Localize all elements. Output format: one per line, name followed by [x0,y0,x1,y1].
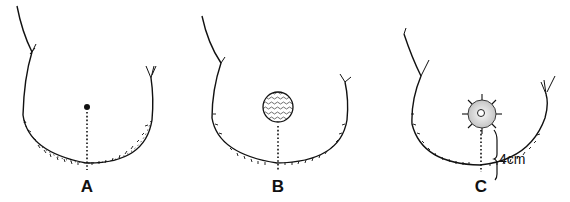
panel-label-c: C [475,177,487,196]
figure: A B 4cm C [0,0,570,202]
nipple-center [478,110,485,117]
measurement-label: 4cm [499,151,525,167]
breast-outline-c [404,34,547,165]
breast-outline-b [202,16,348,163]
suture-line-a [24,120,151,163]
nipple-dot [84,104,90,110]
panel-label-a: A [81,177,93,196]
panel-c: 4cm C [404,28,555,196]
panel-b: B [202,16,351,196]
panel-a: A [17,6,156,196]
breast-outline-a [17,6,153,163]
areola-disc [263,92,293,122]
illustration-canvas: A B 4cm C [0,0,570,202]
measurement-brace [494,130,497,180]
panel-label-b: B [272,177,284,196]
